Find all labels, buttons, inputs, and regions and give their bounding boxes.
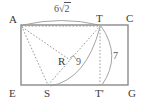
dotted-line-A-S bbox=[22, 26, 49, 85]
radical-group: √2 bbox=[59, 4, 71, 14]
vertex-label-T-prime: T' bbox=[95, 88, 104, 99]
vertex-label-G: G bbox=[128, 88, 136, 99]
measure-label-right: 7 bbox=[113, 51, 118, 61]
vertex-label-C: C bbox=[126, 13, 133, 24]
radical-argument: 2 bbox=[64, 2, 71, 14]
measure-label-top: 6√2 bbox=[54, 4, 71, 14]
vertex-label-E: E bbox=[9, 88, 16, 99]
measure-label-middle: 9 bbox=[76, 57, 81, 67]
vertex-label-A: A bbox=[9, 14, 17, 25]
point-label-R: R bbox=[58, 56, 65, 67]
arc-right-measure bbox=[101, 26, 112, 85]
vertex-label-T: T bbox=[96, 13, 103, 24]
figure-canvas bbox=[0, 0, 144, 105]
vertex-label-S: S bbox=[44, 88, 50, 99]
geometry-figure: A T C E S T' G 6√2 9 7 R bbox=[0, 0, 144, 105]
